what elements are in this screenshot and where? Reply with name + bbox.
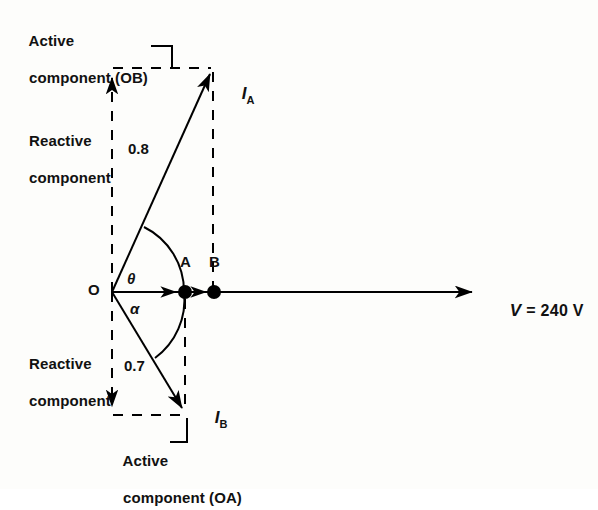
label-active-component-ob: Active component (OB) bbox=[12, 14, 148, 105]
angle-theta-arc bbox=[144, 227, 184, 292]
current-ia-phasor-arrow bbox=[112, 74, 210, 292]
label-reactive-component-bottom-line1: Reactive bbox=[29, 355, 92, 372]
label-point-b: B bbox=[209, 253, 220, 271]
label-angle-alpha: α bbox=[130, 300, 139, 318]
label-point-a: A bbox=[180, 253, 191, 271]
label-current-ia: IA bbox=[224, 64, 254, 124]
angle-alpha-arc bbox=[155, 292, 184, 358]
label-voltage-symbol: V bbox=[510, 301, 521, 320]
label-angle-theta: θ bbox=[127, 270, 135, 288]
label-active-component-oa-line1: Active bbox=[123, 452, 169, 469]
label-reactive-component-top-line2: component bbox=[29, 169, 111, 186]
label-reactive-component-bottom-line2: component bbox=[29, 392, 111, 409]
label-magnitude-ia: 0.8 bbox=[128, 140, 149, 158]
current-ib-phasor-arrow bbox=[112, 292, 182, 408]
leader-active-component-ob bbox=[151, 46, 172, 68]
label-current-ib-symbol: I bbox=[215, 408, 220, 427]
label-active-component-oa-line2: component (OA) bbox=[123, 489, 242, 506]
point-a-dot bbox=[178, 285, 192, 299]
label-active-component-ob-line1: Active bbox=[29, 32, 75, 49]
label-current-ia-subscript: A bbox=[247, 94, 255, 106]
label-magnitude-ib: 0.7 bbox=[124, 357, 145, 375]
label-reactive-component-bottom: Reactive component bbox=[12, 337, 111, 428]
label-reactive-component-top: Reactive component bbox=[12, 114, 111, 205]
label-current-ib-subscript: B bbox=[220, 418, 228, 430]
label-voltage: V= 240 V bbox=[492, 281, 584, 341]
label-active-component-ob-line2: component (OB) bbox=[29, 69, 148, 86]
label-origin: O bbox=[88, 281, 100, 299]
label-reactive-component-top-line1: Reactive bbox=[29, 132, 92, 149]
label-voltage-value: = 240 V bbox=[526, 302, 584, 319]
label-current-ia-symbol: I bbox=[242, 84, 247, 103]
point-b-dot bbox=[207, 285, 221, 299]
label-current-ib: IB bbox=[197, 388, 227, 448]
